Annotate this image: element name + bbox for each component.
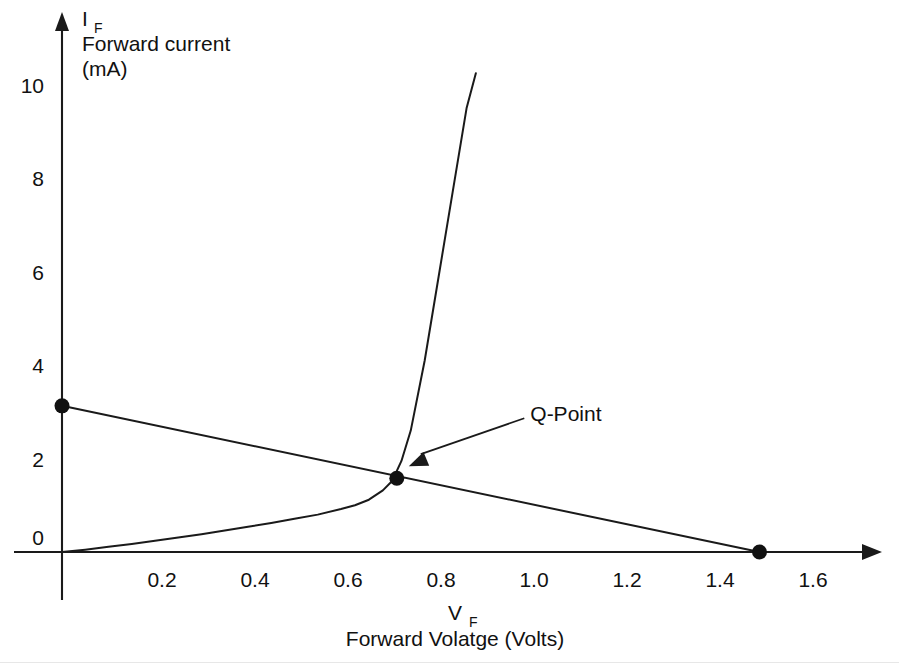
y-tick-labels-group: 10 8 6 4 2 0 <box>21 74 45 549</box>
marker-q-point <box>389 471 404 486</box>
y-axis-units: (mA) <box>82 57 128 80</box>
x-tick-label-1-0: 1.0 <box>519 568 548 591</box>
y-axis-title-group: I F Forward current (mA) <box>82 7 230 80</box>
y-tick-label-6: 6 <box>32 261 44 284</box>
x-tick-label-1-6: 1.6 <box>798 568 827 591</box>
y-tick-label-4: 4 <box>32 354 44 377</box>
y-tick-label-2: 2 <box>32 448 44 471</box>
diode-load-line-figure: 10 8 6 4 2 0 0.2 0.4 0.6 0.8 1.0 1.2 1.4… <box>0 0 899 669</box>
x-axis-title-group: V F Forward Volatge (Volts) <box>346 601 564 650</box>
x-tick-label-0-2: 0.2 <box>147 568 176 591</box>
x-tick-label-0-8: 0.8 <box>426 568 455 591</box>
x-tick-label-1-4: 1.4 <box>705 568 735 591</box>
q-point-label: Q-Point <box>530 402 601 425</box>
marker-load-line-x-intercept <box>752 545 767 560</box>
scan-edge-artifact <box>0 662 899 663</box>
y-axis-symbol: I <box>82 7 88 30</box>
q-point-leader-line <box>421 418 525 454</box>
q-point-arrowhead <box>409 452 429 466</box>
data-curves-group <box>62 73 760 552</box>
y-axis-arrowhead <box>55 12 69 31</box>
x-axis-arrowhead <box>862 544 882 560</box>
x-axis-symbol: V <box>448 601 462 624</box>
chart-canvas: 10 8 6 4 2 0 0.2 0.4 0.6 0.8 1.0 1.2 1.4… <box>0 0 899 669</box>
x-tick-labels-group: 0.2 0.4 0.6 0.8 1.0 1.2 1.4 1.6 <box>147 568 827 591</box>
q-point-annotation-group: Q-Point <box>409 402 602 466</box>
x-tick-label-1-2: 1.2 <box>612 568 641 591</box>
x-tick-label-0-4: 0.4 <box>240 568 270 591</box>
marker-load-line-y-intercept <box>55 398 70 413</box>
x-axis-description: Forward Volatge (Volts) <box>346 627 564 650</box>
y-tick-label-8: 8 <box>32 167 44 190</box>
y-tick-label-0: 0 <box>32 526 44 549</box>
y-tick-label-10: 10 <box>21 74 44 97</box>
y-axis-description: Forward current <box>82 32 230 55</box>
x-tick-label-0-6: 0.6 <box>333 568 362 591</box>
axes-group <box>14 12 882 600</box>
